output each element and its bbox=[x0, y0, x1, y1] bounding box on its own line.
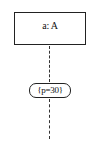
constraint-label: {p=30} bbox=[30, 85, 70, 95]
lifeline-head-box: a: A bbox=[14, 12, 86, 45]
lifeline-dashed-line-lower bbox=[49, 99, 50, 139]
state-invariant-constraint: {p=30} bbox=[29, 83, 71, 98]
lifeline-dashed-line-upper bbox=[49, 46, 50, 82]
lifeline-label: a: A bbox=[15, 20, 85, 31]
cropped-caption bbox=[0, 145, 99, 150]
